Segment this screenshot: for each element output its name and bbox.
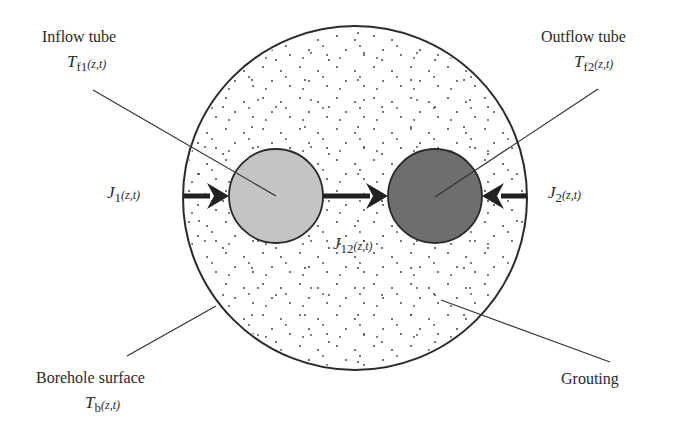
flux-j1-label: J1(z,t)	[107, 183, 140, 203]
grouting-label: Grouting	[561, 370, 619, 388]
leader-line-grouting	[441, 300, 610, 362]
borehole-surface-temperature: Tb(z,t)	[85, 393, 120, 413]
outflow-tube-label: Outflow tube	[541, 28, 626, 46]
borehole-surface-label: Borehole surface	[36, 369, 145, 387]
outflow-tube-temperature: Tf2(z,t)	[574, 52, 613, 72]
inflow-tube-temperature: Tf1(z,t)	[67, 52, 106, 72]
inflow-tube-label: Inflow tube	[42, 28, 116, 46]
outflow-tube	[388, 149, 482, 243]
leader-line-borehole	[127, 306, 216, 356]
flux-j12-label: J12(z,t)	[333, 234, 373, 254]
flux-j2-label: J2(z,t)	[548, 183, 581, 203]
